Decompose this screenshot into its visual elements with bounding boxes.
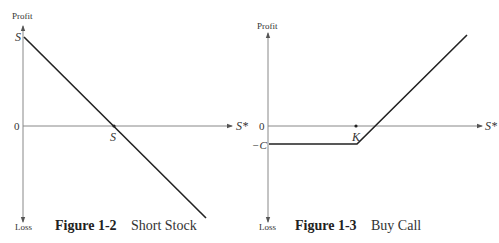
y-tick-zero: 0: [259, 120, 265, 132]
chart-short-stock: Profit S* S 0 S Loss Figure 1-2 Short St…: [12, 11, 248, 233]
caption-title: Short Stock: [131, 218, 197, 233]
y-axis-bottom-label: Loss: [15, 222, 33, 232]
caption-number: Figure 1-3: [295, 218, 357, 233]
call-payoff-line: [269, 35, 467, 144]
caption-number: Figure 1-2: [55, 218, 117, 233]
y-axis-top-label: Profit: [12, 11, 33, 21]
caption-title: Buy Call: [371, 218, 421, 233]
figures-canvas: Profit S* S 0 S Loss Figure 1-2 Short St…: [0, 0, 499, 243]
chart-buy-call: Profit S* 0 −C K Loss Figure 1-3 Buy Cal…: [252, 21, 497, 233]
y-tick-s: S: [15, 30, 21, 44]
x-axis-label: S*: [485, 119, 497, 133]
y-tick-zero: 0: [14, 120, 20, 132]
x-axis-label: S*: [236, 119, 248, 133]
y-tick-minus-c: −C: [252, 139, 267, 151]
x-tick-s: S: [110, 130, 116, 144]
strike-dot: [354, 124, 357, 127]
short-stock-payoff-line: [24, 37, 206, 218]
y-axis-top-label: Profit: [257, 21, 278, 31]
y-axis-bottom-label: Loss: [259, 222, 277, 232]
